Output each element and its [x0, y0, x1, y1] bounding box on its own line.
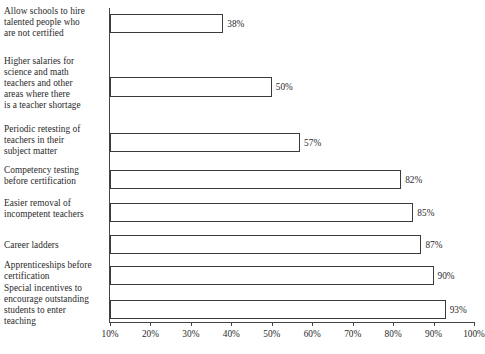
category-label-1: Higher salaries for science and math tea…	[4, 56, 108, 111]
x-tick-label: 20%	[142, 329, 159, 340]
bar-value-label: 82%	[405, 175, 422, 185]
bar	[110, 77, 272, 97]
category-label-2: Periodic retesting of teachers in their …	[4, 124, 108, 157]
category-label-0: Allow schools to hire talented people wh…	[4, 6, 108, 39]
x-tick-label: 100%	[463, 329, 485, 340]
bar	[110, 203, 413, 222]
x-tick-mark	[110, 322, 111, 326]
bar	[110, 235, 421, 254]
x-axis-line	[109, 322, 474, 323]
bar-value-label: 93%	[450, 305, 467, 315]
category-label-4: Easier removal of incompetent teachers	[4, 198, 108, 220]
x-tick-label: 70%	[344, 329, 361, 340]
bar-value-label: 87%	[425, 240, 442, 250]
x-tick-label: 10%	[101, 329, 118, 340]
x-tick-mark	[191, 322, 192, 326]
x-tick-mark	[312, 322, 313, 326]
category-label-5: Career ladders	[4, 240, 108, 251]
bar-value-label: 57%	[304, 138, 321, 148]
bar-value-label: 38%	[227, 19, 244, 29]
bar-value-label: 50%	[276, 82, 293, 92]
x-tick-label: 50%	[263, 329, 280, 340]
bar	[110, 266, 434, 285]
bar-value-label: 90%	[438, 271, 455, 281]
bar-value-label: 85%	[417, 208, 434, 218]
category-label-3: Competency testing before certification	[4, 165, 108, 187]
x-tick-mark	[353, 322, 354, 326]
category-label-7: Special incentives to encourage outstand…	[4, 283, 116, 327]
x-tick-mark	[231, 322, 232, 326]
bar	[110, 170, 401, 189]
bar	[110, 14, 223, 33]
x-tick-label: 40%	[223, 329, 240, 340]
x-tick-label: 80%	[385, 329, 402, 340]
bar	[110, 300, 446, 319]
plot-area: 38%50%57%82%85%87%90%93%	[110, 0, 474, 322]
category-label-6: Apprenticeships before certification	[4, 260, 116, 282]
x-tick-mark	[150, 322, 151, 326]
x-tick-mark	[393, 322, 394, 326]
x-tick-label: 90%	[425, 329, 442, 340]
x-tick-label: 30%	[182, 329, 199, 340]
bar	[110, 133, 300, 152]
x-tick-label: 60%	[304, 329, 321, 340]
x-tick-mark	[474, 322, 475, 326]
x-tick-mark	[434, 322, 435, 326]
x-tick-mark	[272, 322, 273, 326]
